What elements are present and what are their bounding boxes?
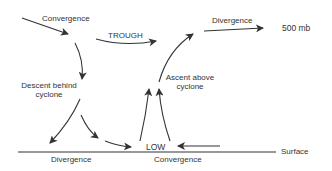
divergence-top-arrow xyxy=(204,28,263,31)
convergence-top-label: Convergence xyxy=(42,15,90,23)
to-low-arrow xyxy=(105,141,131,147)
divergence-top-label: Divergence xyxy=(212,17,252,25)
descent-label-line2: cyclone xyxy=(14,91,84,99)
descent-label: Descent behind cyclone xyxy=(14,82,84,99)
descent-left-arrow xyxy=(50,99,80,143)
divergence-bottom-label: Divergence xyxy=(51,156,91,164)
low-label: LOW xyxy=(146,143,165,152)
convergence-bottom-label: Convergence xyxy=(154,156,202,164)
ascent-arrow-right xyxy=(159,89,170,141)
descent-label-line1: Descent behind xyxy=(14,82,84,90)
descent-arrow xyxy=(75,43,82,79)
level-500mb-label: 500 mb xyxy=(282,24,310,33)
surface-label: Surface xyxy=(281,148,309,156)
ascent-label-line1: Ascent above xyxy=(161,74,219,82)
ascent-label: Ascent above cyclone xyxy=(161,74,219,91)
trough-label: TROUGH xyxy=(108,32,143,40)
ascent-arrow-left xyxy=(140,89,149,141)
ascent-label-line2: cyclone xyxy=(161,83,219,91)
descent-right-arrow xyxy=(81,115,98,138)
